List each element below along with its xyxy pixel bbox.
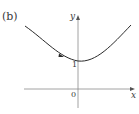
y-axis-arrow-icon <box>76 15 80 20</box>
graph-panel: (b) y x 0 1 <box>0 0 139 114</box>
x-axis-label: x <box>131 91 136 100</box>
panel-label: (b) <box>2 11 18 22</box>
origin-label: 0 <box>71 91 76 99</box>
y-intercept-label: 1 <box>72 61 77 69</box>
y-axis-label: y <box>70 12 75 21</box>
